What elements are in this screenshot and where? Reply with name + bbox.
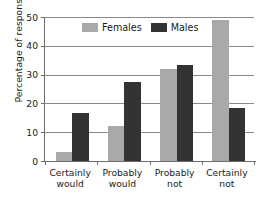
y-axis-tick	[41, 46, 45, 47]
y-axis-tick	[41, 75, 45, 76]
bar-males-certainly-would	[72, 113, 89, 161]
y-axis-tick-label: 40	[12, 41, 38, 50]
gridline	[45, 17, 254, 18]
x-axis-label: Certainlynot	[201, 167, 253, 190]
bar-males-probably-not	[177, 65, 194, 161]
legend-entry-females: Females	[82, 22, 142, 33]
legend-label-males: Males	[171, 22, 199, 33]
y-axis-tick-label: 0	[12, 157, 38, 166]
males-swatch-icon	[151, 23, 167, 32]
y-axis-tick	[41, 103, 45, 104]
bar-chart: Percentage of responses 01020304050 Cert…	[0, 0, 267, 204]
bar-females-certainly-not	[212, 20, 229, 161]
bar-males-probably-would	[124, 82, 141, 161]
bar-females-probably-would	[108, 126, 125, 161]
plot-area	[44, 17, 254, 161]
y-axis-tick	[41, 17, 45, 18]
females-swatch-icon	[82, 23, 98, 32]
x-axis-label-line: Certainly	[44, 167, 96, 178]
y-axis-tick-label: 10	[12, 128, 38, 137]
legend-entry-males: Males	[151, 22, 199, 33]
x-axis-label-line: not	[149, 178, 201, 189]
x-axis-label: Probablynot	[149, 167, 201, 190]
x-axis-label-line: Probably	[149, 167, 201, 178]
y-axis-tick-label: 50	[12, 13, 38, 22]
x-axis-line	[44, 161, 256, 162]
y-axis-tick-label: 20	[12, 99, 38, 108]
legend-label-females: Females	[102, 22, 142, 33]
bar-females-probably-not	[160, 69, 177, 161]
x-axis-label: Probablywould	[96, 167, 148, 190]
y-axis-tick	[41, 132, 45, 133]
x-axis-label: Certainlywould	[44, 167, 96, 190]
y-axis-tick-label: 30	[12, 70, 38, 79]
x-axis-label-line: Probably	[96, 167, 148, 178]
x-axis-label-line: not	[201, 178, 253, 189]
legend: Females Males	[82, 22, 198, 33]
bar-males-certainly-not	[229, 108, 246, 161]
x-axis-label-line: Certainly	[201, 167, 253, 178]
x-axis-label-line: would	[44, 178, 96, 189]
x-axis-label-line: would	[96, 178, 148, 189]
